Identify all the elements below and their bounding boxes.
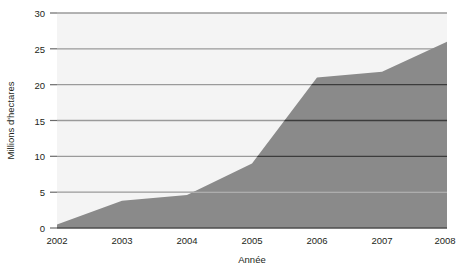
y-tick-marks (50, 13, 57, 228)
x-tick-label-2005: 2005 (241, 235, 262, 246)
y-tick-label-25: 25 (34, 44, 45, 55)
y-axis-title: Millions d'hectares (5, 81, 16, 159)
x-axis-tick-labels: 2002 2003 2004 2005 2006 2007 2008 (46, 235, 455, 246)
y-tick-label-30: 30 (34, 8, 45, 19)
y-tick-label-5: 5 (40, 187, 45, 198)
x-tick-label-2006: 2006 (306, 235, 327, 246)
x-tick-label-2002: 2002 (46, 235, 67, 246)
area-chart: 30 25 20 15 10 5 0 2002 2003 2004 2005 2… (0, 0, 464, 271)
x-tick-label-2008: 2008 (434, 235, 455, 246)
y-axis-tick-labels: 30 25 20 15 10 5 0 (34, 8, 45, 234)
y-tick-label-0: 0 (40, 223, 45, 234)
y-tick-label-20: 20 (34, 80, 45, 91)
chart-figure: 30 25 20 15 10 5 0 2002 2003 2004 2005 2… (0, 0, 464, 271)
x-axis-title: Année (238, 254, 265, 265)
y-tick-label-10: 10 (34, 151, 45, 162)
x-tick-label-2004: 2004 (176, 235, 197, 246)
y-tick-label-15: 15 (34, 116, 45, 127)
x-tick-label-2007: 2007 (371, 235, 392, 246)
x-tick-label-2003: 2003 (111, 235, 132, 246)
